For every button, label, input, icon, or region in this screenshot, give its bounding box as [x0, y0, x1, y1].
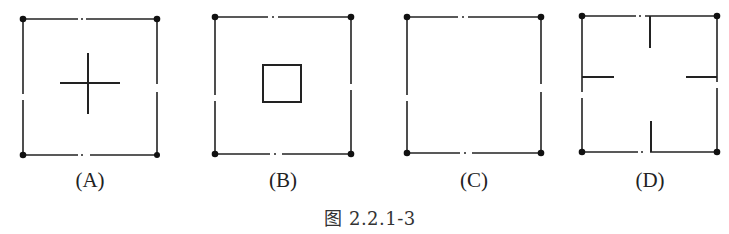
corner-dots [20, 13, 721, 159]
panel-d-label: (D) [600, 168, 700, 193]
panel-b-label: (B) [233, 168, 333, 193]
panel-a-drawing [23, 19, 157, 155]
panel-c-label: (C) [424, 168, 524, 193]
panel-c-drawing [407, 17, 541, 153]
inner-square [263, 65, 301, 102]
diagram-canvas [0, 0, 729, 234]
panel-a-label: (A) [40, 168, 140, 193]
figure-caption: 图 2.2.1-3 [290, 204, 450, 230]
panel-b-drawing [215, 17, 351, 154]
panel-d-drawing [582, 16, 717, 152]
